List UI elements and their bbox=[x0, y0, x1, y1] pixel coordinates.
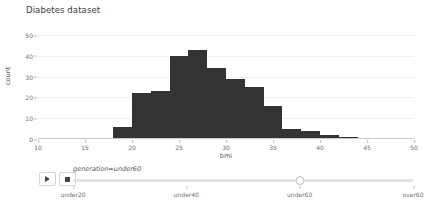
y-axis-label: count bbox=[4, 67, 12, 85]
y-axis: count 01020304050 bbox=[0, 0, 38, 214]
x-tick-label: 50 bbox=[410, 144, 418, 151]
bar-series bbox=[38, 31, 414, 139]
slider-tick-label[interactable]: under20 bbox=[60, 191, 85, 198]
slider-track[interactable] bbox=[73, 179, 413, 182]
histogram-bar bbox=[226, 79, 245, 139]
x-tick-label: 25 bbox=[175, 144, 183, 151]
x-tick-label: 45 bbox=[363, 144, 371, 151]
slider-value-label: generation=under60 bbox=[73, 165, 141, 173]
stop-square-icon bbox=[65, 177, 70, 182]
x-tick-label: 15 bbox=[81, 144, 89, 151]
x-tick-label: 40 bbox=[316, 144, 324, 151]
plot-area bbox=[38, 31, 414, 139]
histogram-bar bbox=[132, 93, 151, 139]
histogram-bar bbox=[151, 91, 170, 139]
histogram-bar bbox=[207, 68, 226, 139]
histogram-bar bbox=[264, 106, 283, 139]
x-tick-label: 20 bbox=[128, 144, 136, 151]
slider-tick-label[interactable]: over60 bbox=[402, 191, 423, 198]
x-tick-label: 10 bbox=[34, 144, 42, 151]
slider-tick-label[interactable]: under40 bbox=[174, 191, 199, 198]
x-tick-label: 35 bbox=[269, 144, 277, 151]
slider-tick-label[interactable]: under60 bbox=[287, 191, 312, 198]
x-axis-label: bmi bbox=[38, 152, 414, 160]
play-button[interactable] bbox=[39, 172, 56, 186]
x-axis-line bbox=[38, 138, 414, 139]
y-tick-label: 10 bbox=[25, 115, 33, 122]
slider-handle[interactable] bbox=[295, 176, 304, 185]
slider-tick-labels: under20under40under60over60 bbox=[73, 186, 413, 204]
histogram-bar bbox=[245, 87, 264, 139]
generation-slider[interactable] bbox=[73, 176, 413, 184]
y-tick-label: 0 bbox=[29, 136, 33, 143]
x-tick-label: 30 bbox=[222, 144, 230, 151]
play-triangle-icon bbox=[45, 176, 50, 182]
y-tick-label: 30 bbox=[25, 73, 33, 80]
y-tick-label: 50 bbox=[25, 32, 33, 39]
y-tick-label: 40 bbox=[25, 52, 33, 59]
histogram-bar bbox=[170, 56, 189, 139]
histogram-bar bbox=[188, 50, 207, 139]
y-tick-label: 20 bbox=[25, 94, 33, 101]
animation-control-panel: generation=under60 under20under40under60… bbox=[34, 166, 416, 210]
